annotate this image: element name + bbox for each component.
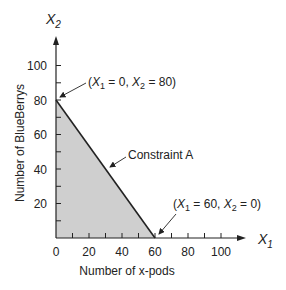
y-tick-label: 100 xyxy=(27,59,47,73)
y-tick-label: 80 xyxy=(34,94,48,108)
x-axis-variable: X1 xyxy=(257,231,273,250)
x-axis-arrow-icon xyxy=(237,235,246,241)
constraint-a-label: Constraint A xyxy=(128,148,193,162)
y-tick-label: 60 xyxy=(34,128,48,142)
annotation-bottom-point: (X1 = 60, X2 = 0) xyxy=(173,197,261,213)
x-tick-label: 0 xyxy=(53,245,60,259)
annotation-arrow-top xyxy=(60,83,86,97)
x-tick-label: 80 xyxy=(181,245,195,259)
chart: 20 40 60 80 100 0 20 40 60 80 100 X2 X1 … xyxy=(0,0,286,290)
annotation-top-point: (X1 = 0, X2 = 80) xyxy=(88,75,176,91)
y-tick-label: 20 xyxy=(34,197,48,211)
x-tick-label: 20 xyxy=(82,245,96,259)
x-tick-label: 60 xyxy=(148,245,162,259)
y-axis-arrow-icon xyxy=(53,36,59,45)
x-tick-label: 100 xyxy=(211,245,231,259)
x-axis-title: Number of x-pods xyxy=(79,264,174,278)
y-axis-variable: X2 xyxy=(45,11,61,30)
annotation-arrow-constraint xyxy=(110,157,126,167)
x-tick-label: 40 xyxy=(115,245,129,259)
y-axis-title: Number of BlueBerrys xyxy=(13,84,27,202)
y-tick-label: 40 xyxy=(34,163,48,177)
annotation-arrow-bottom xyxy=(159,214,176,234)
